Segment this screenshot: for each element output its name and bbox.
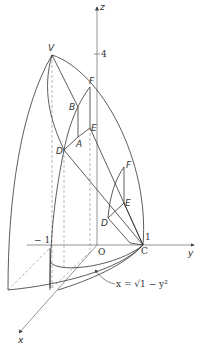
point-V: V (48, 43, 55, 53)
solid-diagram: z 4 y x O 1 − 1 V F B E A D F E D C x = … (0, 0, 203, 352)
z-tick-label: 4 (101, 49, 107, 59)
inner-curve-VD (48, 55, 64, 150)
y-axis-label: y (187, 248, 194, 258)
origin-label: O (98, 247, 105, 257)
point-E-lower: E (125, 198, 131, 208)
point-C: C (141, 246, 148, 256)
y-tick-neg-label: − 1 (34, 235, 50, 245)
z-axis-label: z (99, 2, 105, 12)
point-F-lower: F (126, 160, 132, 170)
point-E-upper: E (91, 123, 97, 133)
point-D-lower: D (101, 218, 108, 228)
point-D-upper: D (56, 146, 63, 156)
point-F-upper: F (89, 76, 95, 86)
point-A: A (75, 139, 82, 149)
outer-left-curve (8, 55, 52, 290)
point-B: B (69, 102, 75, 112)
x-axis (19, 245, 97, 333)
y-tick-pos-label: 1 (145, 232, 151, 242)
x-axis-label: x (17, 335, 24, 345)
curve-equation: x = √1 − y² (116, 279, 168, 289)
solid-outline (8, 55, 144, 290)
